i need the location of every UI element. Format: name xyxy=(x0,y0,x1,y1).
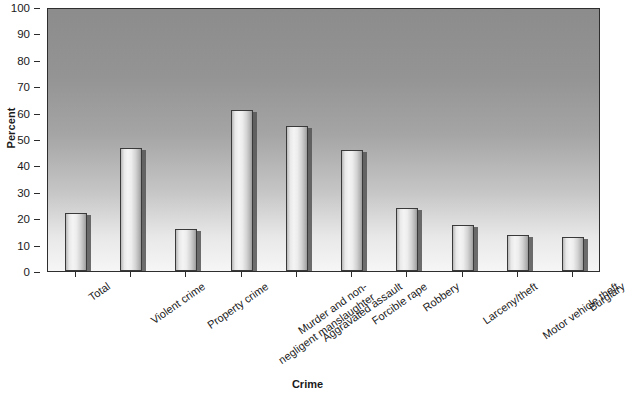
bar[interactable] xyxy=(507,235,529,271)
y-axis-tick-label: 60 xyxy=(17,108,30,119)
y-axis-tick-mark xyxy=(34,34,40,35)
x-axis-tick-label-line: Property crime xyxy=(205,280,270,331)
bar-shadow xyxy=(418,210,422,272)
bar-shadow xyxy=(253,112,257,272)
y-axis-tick-label: 70 xyxy=(17,82,30,93)
x-axis-tick-label-line: Robbery xyxy=(421,280,462,314)
x-axis-tick-mark xyxy=(517,272,518,277)
x-axis-tick-mark xyxy=(130,272,131,277)
x-axis-tick-label-line: negligent manslaughter xyxy=(275,290,376,366)
bar-body xyxy=(396,208,418,271)
y-axis-tick-mark xyxy=(34,114,40,115)
x-axis-tick-label: Property crime xyxy=(205,280,271,331)
x-axis-tick-mark xyxy=(351,272,352,277)
x-axis-tick-label: Violent crime xyxy=(148,280,207,327)
bar[interactable] xyxy=(120,148,142,271)
bar-body xyxy=(507,235,529,271)
y-axis-tick-mark xyxy=(34,61,40,62)
bar[interactable] xyxy=(396,208,418,271)
y-axis-tick-mark xyxy=(34,8,40,9)
x-axis-tick-mark xyxy=(572,272,573,277)
x-axis-tick-label: Murder and non-negligent manslaughter xyxy=(268,280,376,366)
y-axis-tick-label: 90 xyxy=(17,29,30,40)
bar[interactable] xyxy=(231,110,253,271)
bar-shadow xyxy=(87,215,91,272)
x-axis-title: Crime xyxy=(0,378,615,390)
bar-shadow xyxy=(529,237,533,272)
bar-shadow xyxy=(308,128,312,272)
bar[interactable] xyxy=(286,126,308,271)
y-axis-tick-label: 0 xyxy=(24,267,30,278)
y-axis-tick-label: 50 xyxy=(17,135,30,146)
bar-series xyxy=(48,9,599,271)
x-axis-tick-mark xyxy=(185,272,186,277)
x-axis-tick-label: Robbery xyxy=(421,280,462,314)
bar-shadow xyxy=(363,152,367,272)
y-axis-tick-mark xyxy=(34,87,40,88)
y-axis-tick-mark xyxy=(34,193,40,194)
y-axis-tick-labels: 0102030405060708090100 xyxy=(0,8,40,272)
bar-shadow xyxy=(474,227,478,272)
bar[interactable] xyxy=(65,213,87,271)
y-axis-tick-label: 40 xyxy=(17,161,30,172)
bar-body xyxy=(286,126,308,271)
x-axis-tick-label-line: Total xyxy=(86,280,112,303)
x-axis-tick-label-line: Larceny/theft xyxy=(480,280,539,326)
x-axis-tick-label-line: Violent crime xyxy=(148,280,207,326)
y-axis-tick-label: 20 xyxy=(17,214,30,225)
y-axis-tick-mark xyxy=(34,272,40,273)
bar-body xyxy=(452,225,474,271)
bar[interactable] xyxy=(341,150,363,271)
bar-body xyxy=(175,229,197,271)
x-axis-tick-mark xyxy=(406,272,407,277)
y-axis-tick-label: 30 xyxy=(17,187,30,198)
bar-body xyxy=(120,148,142,271)
bar-body xyxy=(562,237,584,271)
x-axis-tick-mark xyxy=(462,272,463,277)
bar-body xyxy=(341,150,363,271)
bar[interactable] xyxy=(562,237,584,271)
x-axis-tick-mark xyxy=(75,272,76,277)
y-axis-tick-label: 100 xyxy=(11,3,30,14)
bar[interactable] xyxy=(452,225,474,271)
bar[interactable] xyxy=(175,229,197,271)
x-axis-tick-label: Total xyxy=(86,280,112,304)
plot-area xyxy=(47,8,600,272)
x-axis-tick-mark xyxy=(296,272,297,277)
y-axis-tick-mark xyxy=(34,166,40,167)
x-axis-tick-mark xyxy=(241,272,242,277)
bar-shadow xyxy=(142,150,146,272)
y-axis-tick-label: 80 xyxy=(17,55,30,66)
bar-shadow xyxy=(584,239,588,272)
bar-body xyxy=(65,213,87,271)
bar-body xyxy=(231,110,253,271)
x-axis-tick-label: Larceny/theft xyxy=(480,280,539,327)
y-axis-tick-label: 10 xyxy=(17,240,30,251)
bar-shadow xyxy=(197,231,201,272)
y-axis-tick-mark xyxy=(34,246,40,247)
y-axis-tick-mark xyxy=(34,140,40,141)
y-axis-tick-mark xyxy=(34,219,40,220)
